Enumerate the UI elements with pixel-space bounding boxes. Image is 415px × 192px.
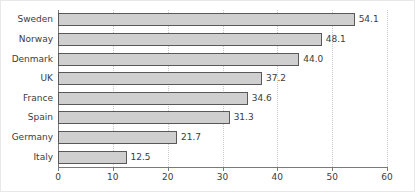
bar-row: 34.6 — [58, 92, 387, 105]
x-tick-label-20: 20 — [162, 172, 173, 183]
bar-row: 54.1 — [58, 13, 387, 26]
bar-value-label-norway: 48.1 — [326, 33, 346, 46]
x-tick-mark-10 — [113, 167, 114, 171]
bar-value-label-italy: 12.5 — [131, 151, 151, 164]
category-label-france: France — [1, 92, 53, 105]
bar-value-label-denmark: 44.0 — [303, 53, 323, 66]
category-label-norway: Norway — [1, 33, 53, 46]
category-label-sweden: Sweden — [1, 13, 53, 26]
x-tick-label-30: 30 — [217, 172, 228, 183]
bar-row: 44.0 — [58, 53, 387, 66]
bar-value-label-spain: 31.3 — [234, 111, 254, 124]
x-tick-label-10: 10 — [107, 172, 118, 183]
bar-norway[interactable] — [58, 33, 322, 46]
bar-uk[interactable] — [58, 72, 262, 85]
bar-france[interactable] — [58, 92, 248, 105]
bar-value-label-sweden: 54.1 — [359, 13, 379, 26]
bar-value-label-germany: 21.7 — [181, 131, 201, 144]
x-tick-mark-30 — [223, 167, 224, 171]
bar-value-label-uk: 37.2 — [266, 72, 286, 85]
category-label-germany: Germany — [1, 131, 53, 144]
x-tick-mark-40 — [277, 167, 278, 171]
bar-row: 12.5 — [58, 151, 387, 164]
x-tick-label-60: 60 — [381, 172, 392, 183]
category-label-spain: Spain — [1, 111, 53, 124]
bar-row: 31.3 — [58, 111, 387, 124]
bar-italy[interactable] — [58, 151, 127, 164]
bar-germany[interactable] — [58, 131, 177, 144]
bar-spain[interactable] — [58, 111, 230, 124]
bar-row: 37.2 — [58, 72, 387, 85]
x-tick-mark-0 — [58, 167, 59, 171]
bar-chart-figure: 0102030405060 SwedenNorwayDenmarkUKFranc… — [0, 0, 415, 192]
category-label-italy: Italy — [1, 151, 53, 164]
gridline-60 — [387, 10, 389, 167]
x-tick-mark-60 — [387, 167, 388, 171]
bar-row: 48.1 — [58, 33, 387, 46]
x-tick-label-0: 0 — [55, 172, 61, 183]
category-label-denmark: Denmark — [1, 53, 53, 66]
category-label-uk: UK — [1, 72, 53, 85]
x-tick-label-40: 40 — [272, 172, 283, 183]
bar-row: 21.7 — [58, 131, 387, 144]
bar-sweden[interactable] — [58, 13, 355, 26]
bar-denmark[interactable] — [58, 53, 299, 66]
x-tick-mark-20 — [168, 167, 169, 171]
bar-value-label-france: 34.6 — [252, 92, 272, 105]
x-tick-mark-50 — [332, 167, 333, 171]
x-tick-label-50: 50 — [326, 172, 337, 183]
